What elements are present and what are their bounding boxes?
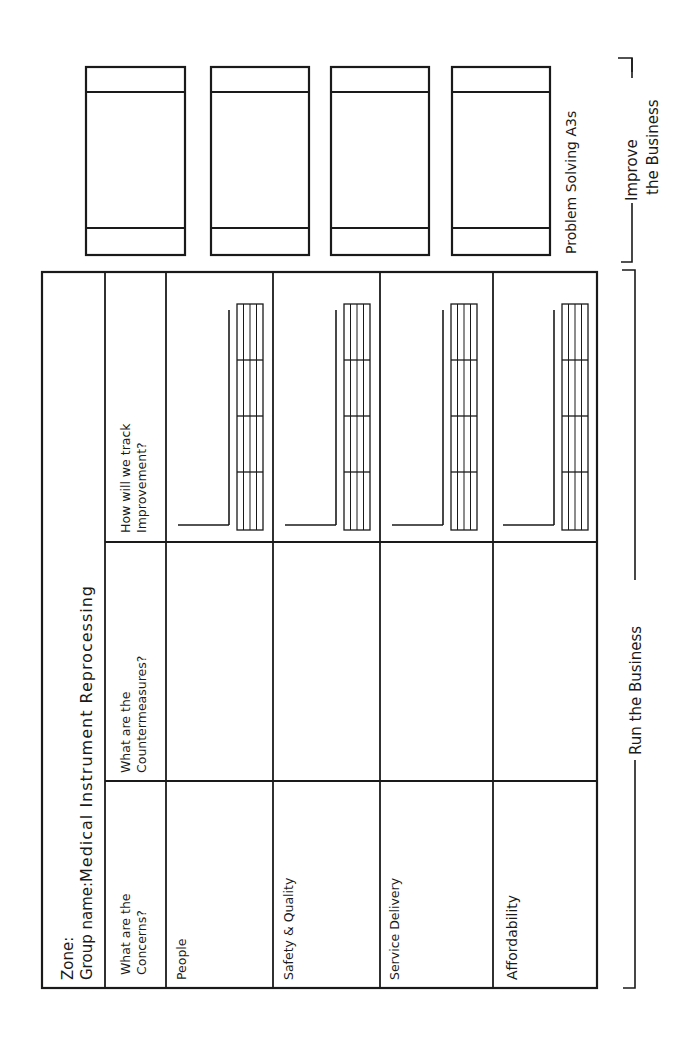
tracking-chart-safety-quality [285,304,370,530]
tracking-chart-service-delivery [392,304,477,530]
a3-section-label: Problem Solving A3s [563,111,579,254]
improve-label-line2: the Business [644,99,662,195]
main-table [42,272,597,988]
tracking-chart-people [178,304,263,530]
a3-box-2 [211,67,309,255]
a3-box-3 [331,67,429,255]
run-label: Run the Business [627,626,645,755]
group-name-value: Medical Instrument Reprocessing [77,585,96,882]
improve-label-line1: Improve [623,139,641,201]
row-label-affordability: Affordability [504,895,520,980]
header-concerns-line2: Concerns? [134,910,149,975]
header-track-line1: How will we track [118,423,133,533]
a3-box-4 [452,67,550,255]
table-border [42,272,597,988]
a3-box-1 [86,67,185,255]
group-name-label: Group name: [78,882,96,980]
row-label-service-delivery: Service Delivery [387,877,402,980]
zone-label: Zone: [59,937,77,980]
header-countermeasures-line2: Countermeasures? [134,656,149,773]
title-band: Zone: Group name: Medical Instrument Rep… [59,585,96,980]
visual-management-board: Zone: Group name: Medical Instrument Rep… [0,0,687,1058]
column-headers: What are the Concerns? What are the Coun… [118,423,149,975]
header-countermeasures-line1: What are the [118,691,133,773]
tracking-chart-affordability [503,304,588,530]
row-labels: People Safety & Quality Service Delivery… [174,877,520,980]
header-track-line2: Improvement? [134,442,149,533]
header-concerns-line1: What are the [118,893,133,975]
row-label-safety-quality: Safety & Quality [281,877,296,980]
row-label-people: People [174,938,189,980]
